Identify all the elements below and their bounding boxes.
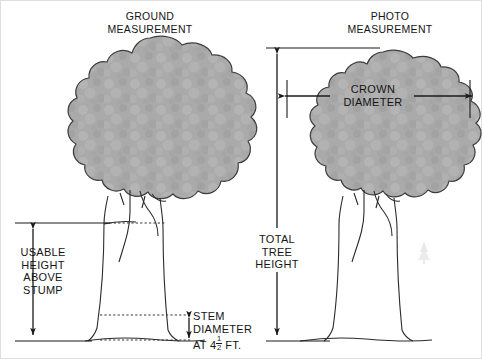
ground-tree-trunk (88, 190, 179, 341)
photo-tree-crown (310, 50, 481, 197)
stem-diameter-line-3-prefix: AT 4 (193, 339, 216, 351)
stem-diameter-line-3-suffix: FT. (222, 339, 242, 351)
stem-diameter-line-2: DIAMETER (193, 323, 252, 335)
ground-measurement-title: GROUND MEASUREMENT (60, 10, 240, 35)
crown-diameter-label: CROWN DIAMETER (330, 83, 416, 109)
ground-tree-crown (68, 36, 257, 198)
photo-tree-trunk (324, 190, 413, 341)
stem-diameter-label: STEMDIAMETERAT 412 FT. (193, 310, 277, 352)
photo-measurement-title: PHOTO MEASUREMENT (300, 10, 480, 35)
diagram-canvas (0, 0, 482, 359)
tree-measurement-figure: GROUND MEASUREMENT PHOTO MEASUREMENT USA… (0, 0, 482, 359)
faint-shrub-icon (418, 242, 430, 264)
total-tree-height-label: TOTAL TREE HEIGHT (250, 233, 304, 271)
stem-diameter-line-1: STEM (193, 310, 225, 322)
usable-height-label: USABLE HEIGHT ABOVE STUMP (10, 246, 76, 296)
